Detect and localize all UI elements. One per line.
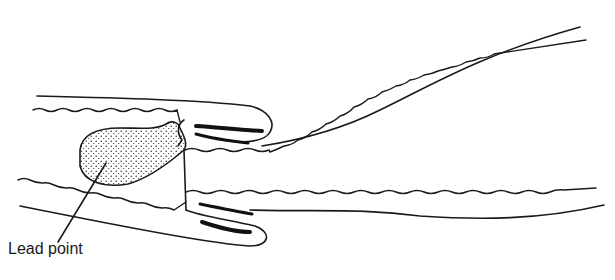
upper-right-mucosa bbox=[185, 40, 586, 152]
lower-right-wall bbox=[250, 205, 604, 218]
lower-fold-bar bbox=[200, 204, 252, 214]
lead-point-leader-line bbox=[58, 163, 106, 242]
upper-fold-bar-2 bbox=[196, 134, 248, 143]
upper-right-wall bbox=[262, 27, 580, 146]
upper-mucosa bbox=[33, 109, 180, 123]
upper-fold-bar bbox=[196, 126, 262, 131]
intussusception-diagram bbox=[0, 0, 615, 280]
lower-mucosa-right bbox=[186, 188, 596, 194]
lower-fold-inner bbox=[184, 150, 186, 210]
lead-point-mass bbox=[80, 122, 186, 185]
lead-point-label: Lead point bbox=[8, 240, 83, 258]
